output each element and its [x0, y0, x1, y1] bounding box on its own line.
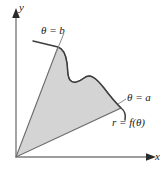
polar-region-figure: y x θ = b θ = a r = f(θ)	[0, 0, 167, 181]
curve-equation-label: r = f(θ)	[112, 117, 145, 128]
shaded-region	[16, 47, 121, 157]
theta-a-leader-line	[118, 99, 126, 104]
x-axis-label: x	[155, 151, 160, 162]
theta-equals-b-label: θ = b	[41, 25, 65, 36]
y-axis-label: y	[19, 2, 24, 13]
theta-equals-a-label: θ = a	[127, 92, 151, 103]
